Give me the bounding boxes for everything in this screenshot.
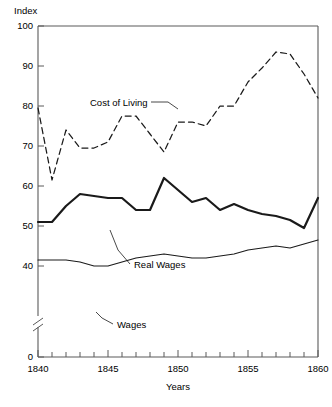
series-real-wages <box>38 178 318 228</box>
y-axis-title: Index <box>14 5 37 16</box>
ytick-label-90: 90 <box>22 60 33 71</box>
series-cost-of-living <box>38 52 318 180</box>
xtick-label-1845: 1845 <box>97 363 118 374</box>
ytick-label-80: 80 <box>22 100 33 111</box>
leader-real-wages <box>110 230 130 264</box>
ytick-label-100: 100 <box>17 20 33 31</box>
xtick-label-1850: 1850 <box>167 363 188 374</box>
ytick-label-50: 50 <box>22 220 33 231</box>
x-axis-title: Years <box>166 381 190 392</box>
ytick-label-0: 0 <box>28 351 33 362</box>
leader-cost-of-living <box>151 102 178 109</box>
chart-container: 100 90 80 70 60 50 40 0 1840 1845 1850 1… <box>0 0 332 407</box>
leader-wages <box>96 312 113 324</box>
xtick-label-1860: 1860 <box>307 363 328 374</box>
axis-break-mark-upper <box>33 318 43 325</box>
annotation-real-wages: Real Wages <box>134 259 186 270</box>
ytick-label-70: 70 <box>22 140 33 151</box>
ytick-label-60: 60 <box>22 180 33 191</box>
xtick-label-1855: 1855 <box>237 363 258 374</box>
annotation-wages: Wages <box>117 319 146 330</box>
line-chart: 100 90 80 70 60 50 40 0 1840 1845 1850 1… <box>0 0 332 407</box>
xtick-label-1840: 1840 <box>27 363 48 374</box>
annotation-cost-of-living: Cost of Living <box>90 97 148 108</box>
ytick-label-40: 40 <box>22 260 33 271</box>
